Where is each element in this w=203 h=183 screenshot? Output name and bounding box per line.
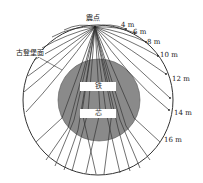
core-label-core: 芯 [80,109,116,118]
core-label-iron: 铁 [80,82,116,91]
distance-label-10m: 10 m [160,52,178,59]
discontinuity-pointer [40,58,62,70]
distance-label-12m: 12 m [172,76,190,83]
distance-label-6m: 6 m [133,29,146,36]
seismic-wave-diagram: 震点 古登堡面 4 m 6 m 8 m 10 m 12 m 14 m 16 m … [0,0,203,183]
distance-label-8m: 8 m [147,39,160,46]
distance-label-14m: 14 m [174,110,192,117]
epicenter-label: 震点 [86,15,100,22]
gutenberg-discontinuity-label: 古登堡面 [15,50,45,57]
diagram-canvas [0,0,203,183]
distance-label-16m: 16 m [164,137,182,144]
